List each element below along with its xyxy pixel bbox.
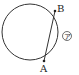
diagram-canvas: B A ア bbox=[0, 0, 79, 75]
label-a: A bbox=[39, 63, 48, 74]
chord-ab bbox=[44, 11, 55, 61]
label-b: B bbox=[57, 3, 64, 14]
circle bbox=[2, 4, 58, 60]
arc-label-a: ア bbox=[64, 33, 71, 41]
point-b-dot bbox=[54, 10, 57, 13]
point-a-dot bbox=[43, 60, 46, 63]
